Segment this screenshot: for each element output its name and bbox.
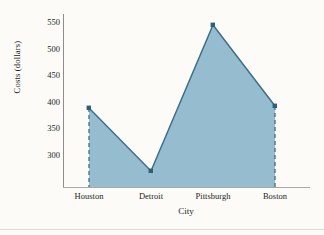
y-tick-label: 550 [34, 17, 60, 27]
y-tick-label: 400 [34, 97, 60, 107]
x-axis-title: City [64, 206, 308, 216]
data-point-marker [149, 169, 153, 173]
y-tick-label: 500 [34, 44, 60, 54]
x-tick-label-pittsburgh: Pittsburgh [196, 191, 231, 201]
x-tick-label-detroit: Detroit [139, 191, 163, 201]
x-tick-label-houston: Houston [75, 191, 104, 201]
area-series-svg [63, 14, 308, 187]
data-point-marker [211, 23, 215, 27]
x-axis-line [63, 187, 310, 188]
y-tick-label: 300 [34, 150, 60, 160]
area-fill [89, 25, 275, 187]
plot-area [63, 14, 308, 187]
chart-figure: Costs (dollars) 550 500 450 400 350 300 … [0, 0, 324, 235]
y-tick-label: 350 [34, 123, 60, 133]
y-axis-title: Costs (dollars) [12, 7, 22, 127]
bottom-divider [0, 229, 324, 230]
y-axis-tick-labels: 550 500 450 400 350 300 [34, 0, 60, 235]
y-tick-label: 450 [34, 70, 60, 80]
data-point-marker [273, 104, 277, 108]
x-tick-label-boston: Boston [263, 191, 287, 201]
data-point-marker [87, 106, 91, 110]
